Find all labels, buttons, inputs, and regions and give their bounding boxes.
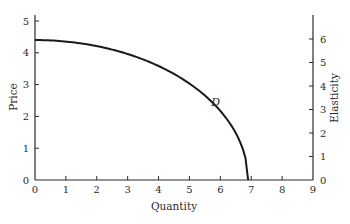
x-tick-label: 8 [279, 184, 285, 195]
x-tick-label: 7 [248, 184, 254, 195]
y-tick-label: 2 [23, 111, 29, 122]
y-tick-label: 3 [23, 79, 29, 90]
axes [35, 15, 313, 180]
y2-axis-title: Elasticity [328, 73, 340, 123]
x-tick-label: 4 [155, 184, 161, 195]
x-tick-label: 1 [63, 184, 69, 195]
x-tick-label: 3 [124, 184, 130, 195]
demand-curve [35, 40, 248, 180]
y2-tick-label: 1 [320, 151, 326, 162]
x-tick-label: 9 [310, 184, 316, 195]
y-tick-label: 0 [23, 175, 29, 186]
y2-tick-label: 2 [320, 128, 326, 139]
y2-tick-label: 5 [320, 57, 326, 68]
y2-tick-label: 4 [320, 81, 326, 92]
curve-label-d: D [210, 96, 220, 109]
y-tick-label: 4 [23, 47, 29, 58]
x-tick-label: 6 [217, 184, 223, 195]
y2-tick-label: 3 [320, 104, 326, 115]
x-tick-label: 0 [32, 184, 38, 195]
y2-tick-label: 0 [320, 175, 326, 186]
y-tick-label: 5 [23, 16, 29, 27]
y-tick-label: 1 [23, 143, 29, 154]
demand-elasticity-chart: 01234567890123450123456 D Quantity Price… [0, 0, 350, 224]
y-axis-title: Price [7, 83, 19, 111]
x-axis-title: Quantity [151, 200, 197, 212]
y2-tick-label: 6 [320, 34, 326, 45]
x-tick-label: 2 [94, 184, 100, 195]
x-tick-label: 5 [186, 184, 192, 195]
